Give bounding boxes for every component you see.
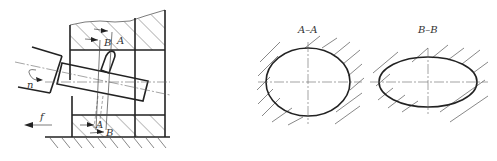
label-a-bottom: A bbox=[95, 119, 103, 130]
section-a-a: A–A bbox=[257, 24, 364, 125]
section-b-b: B–B bbox=[370, 24, 488, 122]
label-b-top: B bbox=[103, 37, 111, 48]
section-title-b-b: B–B bbox=[417, 24, 438, 35]
label-feed-f: f bbox=[39, 111, 46, 122]
label-a-top: A bbox=[116, 35, 124, 46]
tool-holder bbox=[18, 47, 62, 93]
workpiece-view: B A A B n f bbox=[15, 5, 170, 148]
cutter-insert bbox=[101, 51, 115, 73]
label-b-bottom: B bbox=[105, 127, 113, 138]
feed-arrow-icon bbox=[24, 122, 52, 128]
label-rotation-n: n bbox=[27, 79, 33, 90]
machining-diagram: B A A B n f A–A bbox=[0, 0, 497, 161]
ground-hatching bbox=[50, 138, 166, 148]
top-block-hatching bbox=[60, 5, 170, 51]
section-title-a-a: A–A bbox=[297, 24, 317, 35]
